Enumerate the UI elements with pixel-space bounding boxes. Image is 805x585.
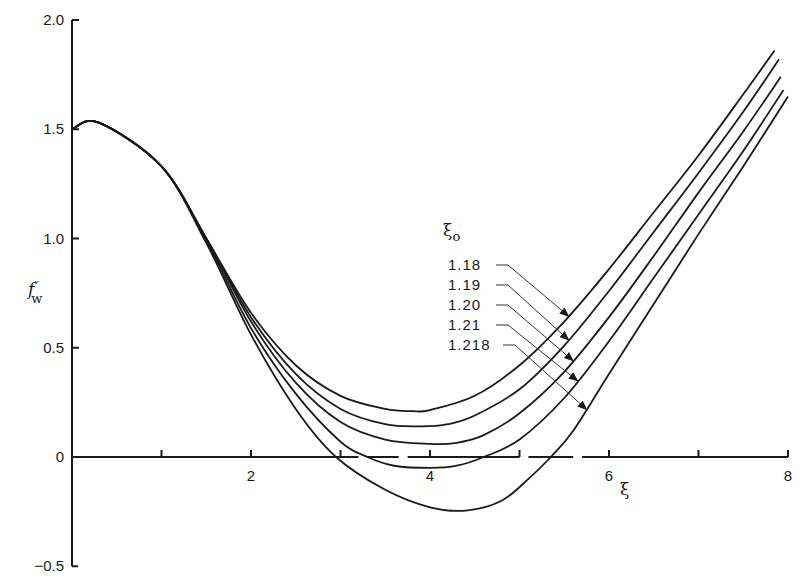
curve-xi0-1-19 (72, 59, 779, 426)
legend-entry-1-18: 1.18 (448, 256, 481, 273)
y-tick-label: −0.5 (34, 557, 64, 574)
x-tick-label: 2 (247, 467, 255, 484)
y-tick-label: 0 (56, 448, 64, 465)
y-tick-label: 1.0 (43, 230, 64, 247)
x-tick-label: 8 (784, 467, 792, 484)
legend-entry-1-218: 1.218 (448, 336, 491, 353)
curve-xi0-1-218 (72, 96, 788, 510)
chart-canvas: −0.500.51.01.52.0 2468 1.181.191.201.211… (0, 0, 805, 585)
legend-leader-arrow (496, 325, 578, 381)
legend-entry-1-21: 1.21 (448, 316, 481, 333)
legend: 1.181.191.201.211.218 (448, 256, 587, 409)
x-axis-label: ξ (620, 479, 629, 499)
x-tick-label: 4 (426, 467, 434, 484)
legend-entry-1-19: 1.19 (448, 276, 481, 293)
curve-xi0-1-20 (72, 77, 781, 444)
curves (72, 51, 788, 511)
legend-title: ξo (443, 220, 460, 244)
x-axis: 2468 (72, 450, 792, 484)
y-tick-label: 1.5 (43, 120, 64, 137)
legend-leader-arrow (496, 285, 569, 340)
curve-xi0-1-18 (72, 51, 775, 412)
y-axis-label: f′′w (26, 279, 42, 306)
x-tick-label: 6 (605, 467, 613, 484)
y-tick-label: 2.0 (43, 11, 64, 28)
legend-leader-arrow (496, 265, 569, 316)
legend-entry-1-20: 1.20 (448, 296, 481, 313)
y-tick-label: 0.5 (43, 339, 64, 356)
